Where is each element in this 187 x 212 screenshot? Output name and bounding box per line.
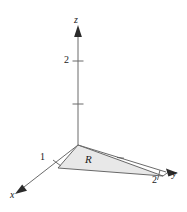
region-r-shape [58, 145, 163, 176]
region-edge-tick [117, 158, 124, 159]
z-axis-arrowhead [74, 25, 82, 37]
y-axis-label: y [172, 169, 176, 179]
axes-diagram [0, 0, 187, 212]
z-axis-label: z [74, 15, 78, 25]
region-label-r: R [85, 154, 92, 165]
figure-canvas: z y x 2 1 2 R [0, 0, 187, 212]
x-axis-tick-label-1: 1 [40, 152, 45, 162]
y-axis-tick-label-2: 2 [152, 175, 157, 185]
z-axis-tick-label-2: 2 [64, 55, 69, 65]
x-axis-label: x [10, 190, 14, 200]
